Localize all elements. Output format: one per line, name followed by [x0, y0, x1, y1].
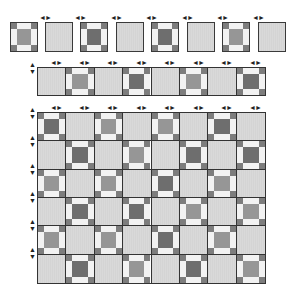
edge-patch: [201, 261, 207, 277]
center-patch: [158, 176, 173, 191]
edge-patch: [186, 219, 201, 225]
edge-patch: [243, 89, 259, 95]
center-patch: [101, 176, 116, 191]
vertical-arrows-icon: ▲▼: [29, 106, 35, 120]
corner-patch: [59, 248, 65, 254]
grid-cell-plain: [95, 198, 123, 226]
center-patch: [243, 204, 259, 219]
horizontal-arrows-icon: ◄►: [74, 14, 86, 21]
edge-patch: [158, 45, 173, 51]
center-patch: [129, 147, 144, 162]
strip-cell-nine-patch: [66, 68, 94, 95]
edge-patch: [101, 191, 116, 197]
block-nine-patch: [80, 22, 108, 52]
edge-patch: [158, 191, 173, 197]
edge-patch: [129, 277, 144, 283]
center-patch: [101, 232, 116, 247]
edge-patch: [201, 204, 207, 219]
grid-cell-plain: [180, 226, 208, 254]
corner-patch: [201, 219, 207, 225]
center-patch: [186, 147, 201, 162]
block-plain: [116, 22, 144, 52]
strip-cell-nine-patch: [237, 68, 265, 95]
corner-patch: [201, 163, 207, 169]
edge-patch: [88, 204, 94, 219]
center-patch: [72, 74, 87, 89]
edge-patch: [72, 89, 87, 95]
edge-patch: [172, 29, 178, 45]
horizontal-arrows-icon: ◄►: [249, 59, 261, 66]
center-patch: [243, 261, 259, 277]
center-patch: [214, 176, 229, 191]
corner-patch: [201, 277, 207, 283]
strip-cell-nine-patch: [123, 68, 151, 95]
corner-patch: [144, 89, 150, 95]
edge-patch: [214, 248, 229, 254]
edge-patch: [158, 134, 173, 140]
corner-patch: [116, 248, 122, 254]
block-plain: [258, 22, 286, 52]
grid-cell-plain: [180, 170, 208, 198]
corner-patch: [88, 163, 94, 169]
edge-patch: [116, 232, 122, 247]
corner-patch: [259, 89, 265, 95]
edge-patch: [259, 261, 265, 277]
vertical-arrows-icon: ▲▼: [29, 134, 35, 148]
grid-cell-plain: [152, 198, 180, 226]
center-patch: [44, 119, 59, 134]
block-plain: [187, 22, 215, 52]
center-patch: [243, 147, 259, 162]
corner-patch: [173, 134, 179, 140]
corner-patch: [59, 134, 65, 140]
grid-cell-nine-patch: [123, 141, 151, 169]
center-patch: [72, 261, 87, 277]
corner-patch: [259, 219, 265, 225]
center-patch: [129, 204, 144, 219]
corner-patch: [116, 191, 122, 197]
grid-cell-plain: [123, 170, 151, 198]
edge-patch: [116, 176, 122, 191]
edge-patch: [201, 74, 207, 89]
grid-cell-nine-patch: [208, 113, 236, 141]
corner-patch: [259, 163, 265, 169]
center-patch: [44, 176, 59, 191]
edge-patch: [173, 119, 179, 134]
grid-cell-nine-patch: [38, 170, 66, 198]
edge-patch: [44, 134, 59, 140]
grid-cell-nine-patch: [152, 113, 180, 141]
edge-patch: [59, 119, 65, 134]
horizontal-arrows-icon: ◄►: [78, 59, 90, 66]
center-patch: [44, 232, 59, 247]
edge-patch: [230, 232, 236, 247]
edge-patch: [173, 176, 179, 191]
edge-patch: [259, 147, 265, 162]
block-plain: [45, 22, 73, 52]
grid-cell-nine-patch: [66, 255, 94, 283]
horizontal-arrows-icon: ◄►: [220, 59, 232, 66]
block-nine-patch: [10, 22, 38, 52]
grid-cell-plain: [66, 170, 94, 198]
corner-patch: [144, 163, 150, 169]
corner-patch: [230, 248, 236, 254]
horizontal-arrows-icon: ◄►: [106, 104, 118, 111]
horizontal-arrows-icon: ◄►: [50, 59, 62, 66]
block-nine-patch: [151, 22, 179, 52]
grid-cell-nine-patch: [123, 255, 151, 283]
grid-cell-nine-patch: [152, 170, 180, 198]
horizontal-arrows-icon: ◄►: [249, 104, 261, 111]
corner-patch: [88, 277, 94, 283]
edge-patch: [158, 248, 173, 254]
edge-patch: [101, 29, 107, 45]
edge-patch: [144, 74, 150, 89]
edge-patch: [44, 248, 59, 254]
corner-patch: [230, 191, 236, 197]
strip-cell-plain: [95, 68, 123, 95]
vertical-arrows-icon: ▲▼: [29, 190, 35, 204]
horizontal-arrows-icon: ◄►: [39, 14, 51, 21]
corner-patch: [101, 45, 107, 51]
edge-patch: [59, 176, 65, 191]
grid-cell-nine-patch: [38, 226, 66, 254]
assembled-row-strip: [37, 67, 266, 96]
block-nine-patch: [222, 22, 250, 52]
grid-cell-nine-patch: [180, 198, 208, 226]
